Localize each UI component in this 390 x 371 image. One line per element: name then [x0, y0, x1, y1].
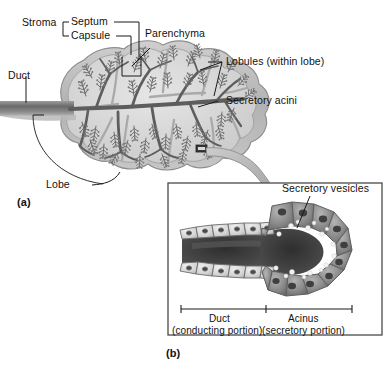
label-secretory-vesicles: Secretory vesicles	[282, 183, 369, 195]
label-capsule: Capsule	[71, 30, 110, 42]
panel-a-tag: (a)	[17, 197, 31, 209]
label-secretory-acini: Secretory acini	[226, 95, 297, 107]
label-stroma: Stroma	[22, 17, 56, 29]
label-septum: Septum	[71, 16, 108, 28]
label-acinus-sub: (secretory portion)	[262, 325, 345, 337]
main-duct-stem-shadow	[0, 115, 76, 121]
main-duct-stem	[0, 101, 74, 116]
panel-b-tag: (b)	[166, 348, 180, 360]
label-lobe: Lobe	[46, 179, 70, 191]
figure-root: Stroma Septum Capsule Parenchyma Lobules…	[0, 0, 390, 371]
label-acinus-title: Acinus	[288, 313, 319, 325]
label-duct: Duct	[8, 70, 30, 82]
label-duct-title: Duct	[209, 313, 230, 325]
magnified-region-box-inner	[198, 147, 205, 150]
label-duct-sub: (conducting portion)	[172, 325, 262, 337]
label-lobules: Lobules (within lobe)	[226, 56, 324, 68]
stroma-bracket	[63, 22, 69, 36]
label-parenchyma: Parenchyma	[145, 28, 205, 40]
panel-b-illustration	[168, 183, 382, 335]
